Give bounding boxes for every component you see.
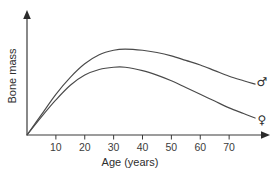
female-symbol-icon: ♀ bbox=[258, 113, 267, 127]
bone-mass-chart: 10203040506070 ♂ ♀ Age (years) Bone mass bbox=[0, 0, 280, 176]
male-symbol-icon: ♂ bbox=[257, 75, 268, 89]
x-tick-label: 30 bbox=[108, 141, 120, 153]
y-axis-title: Bone mass bbox=[6, 48, 18, 104]
x-tick-label: 60 bbox=[194, 141, 206, 153]
x-tick-label: 50 bbox=[166, 141, 178, 153]
x-tick-marks bbox=[56, 135, 229, 140]
x-tick-label: 40 bbox=[137, 141, 149, 153]
y-axis-arrow-icon bbox=[23, 10, 31, 19]
x-tick-labels: 10203040506070 bbox=[50, 141, 235, 153]
x-tick-label: 10 bbox=[50, 141, 62, 153]
x-tick-label: 70 bbox=[223, 141, 235, 153]
chart-canvas: 10203040506070 ♂ ♀ Age (years) Bone mass bbox=[0, 0, 280, 176]
x-axis-arrow-icon bbox=[261, 131, 270, 139]
x-axis-title: Age (years) bbox=[102, 156, 159, 168]
series-line-female bbox=[27, 67, 255, 135]
x-tick-label: 20 bbox=[79, 141, 91, 153]
series-line-male bbox=[27, 49, 255, 135]
